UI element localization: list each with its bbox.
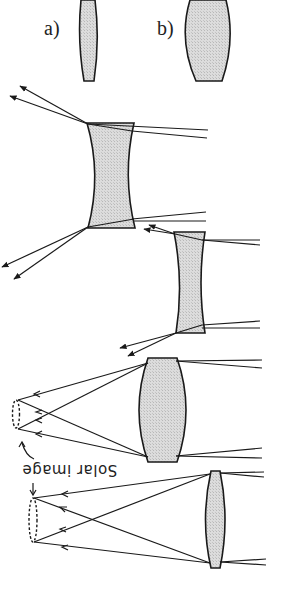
solar-image-annotation: Solar image: [22, 461, 117, 479]
concave-lens-small: [120, 225, 260, 356]
lens-a: [80, 0, 98, 81]
label-a: a): [44, 17, 60, 40]
lens-b: [185, 0, 230, 81]
convex-lens-thick: [13, 358, 263, 462]
label-b: b): [157, 17, 174, 40]
optics-diagram: [0, 0, 284, 592]
convex-lens-thin: [29, 471, 266, 568]
